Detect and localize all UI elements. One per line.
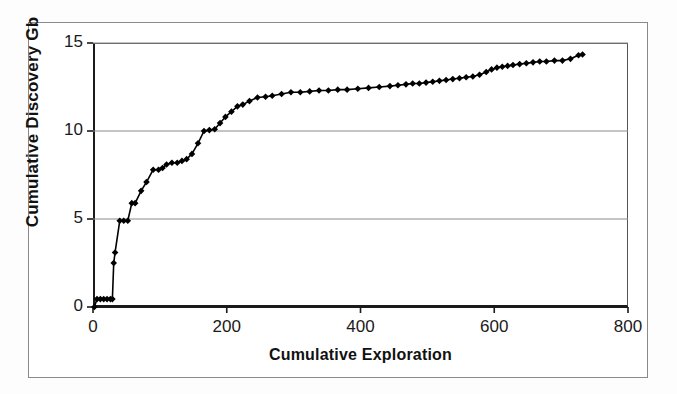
x-tick-label: 600 <box>464 317 524 337</box>
x-tick-label: 0 <box>63 317 123 337</box>
x-tick-label: 400 <box>331 317 391 337</box>
y-axis-title: Cumulative Discovery Gb <box>23 7 43 237</box>
chart-figure: 051015 0200400600800 Cumulative Discover… <box>0 0 677 394</box>
x-tick-label: 200 <box>197 317 257 337</box>
x-axis-tick-labels: 0200400600800 <box>0 0 677 394</box>
x-tick-label: 800 <box>598 317 658 337</box>
x-axis-title: Cumulative Exploration <box>93 346 628 364</box>
